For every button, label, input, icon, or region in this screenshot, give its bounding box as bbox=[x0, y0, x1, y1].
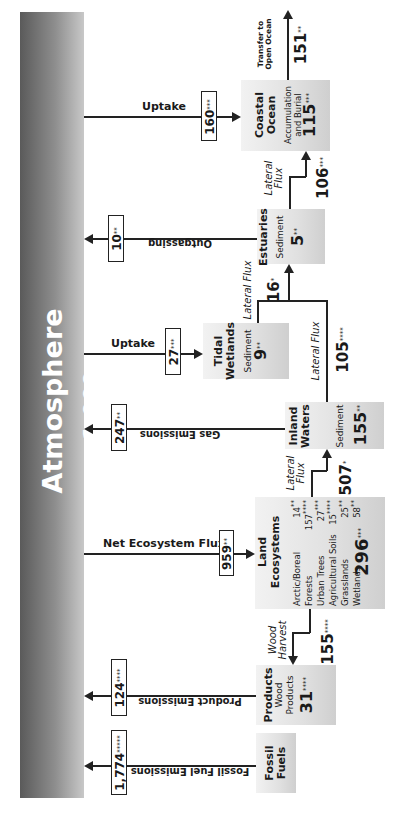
land-ecosystems-node: Land Ecosystems Arctic/Boreal 14** Fores… bbox=[255, 497, 385, 609]
inland-lateral-label: Lateral Flux bbox=[309, 311, 323, 391]
net-ecosystem-value-box: 959** bbox=[219, 530, 234, 576]
land-row-agricultural-soils: Agricultural Soils 15**** bbox=[327, 500, 339, 606]
estuary-coastal-connector-h bbox=[289, 176, 306, 178]
tidal-wetlands-node: Tidal Wetlands Sediment 9** bbox=[203, 323, 289, 379]
arrow-up-icon bbox=[322, 449, 332, 458]
wood-harvest-label: Wood Harvest bbox=[265, 620, 291, 660]
land-inland-connector-h bbox=[311, 470, 327, 472]
product-emissions-value-box: 124**** bbox=[111, 659, 127, 716]
open-ocean-label: Transfer to Open Ocean bbox=[253, 19, 277, 69]
outgassing-label: Outgassing bbox=[140, 237, 220, 251]
wood-harvest-connector-h bbox=[292, 632, 310, 634]
arrow-left-icon bbox=[84, 234, 93, 244]
estuary-coastal-connector-v bbox=[305, 158, 307, 177]
arrow-left-icon bbox=[84, 691, 93, 701]
inland-lateral-value: 105**** bbox=[333, 320, 353, 380]
tidal-up-connector bbox=[257, 300, 259, 323]
fossil-emissions-label: Fossil Fuel Emissions bbox=[130, 765, 250, 779]
fossil-fuels-node: Fossil Fuels bbox=[256, 733, 296, 793]
coastal-uptake-value-box: 160*** bbox=[201, 91, 217, 141]
atmosphere-value: 1,009** bbox=[78, 322, 106, 482]
land-inland-connector-v bbox=[326, 456, 328, 471]
arrow-up-icon bbox=[284, 264, 294, 273]
gas-emissions-value-box: 247** bbox=[111, 404, 127, 451]
estuaries-node: Estuaries Sediment 5** bbox=[257, 209, 325, 264]
arrow-up-icon bbox=[283, 10, 293, 19]
land-total: 296*** bbox=[350, 522, 372, 582]
land-inland-value: 507* bbox=[336, 453, 356, 503]
gas-emissions-label: Gas Emissions bbox=[130, 428, 230, 442]
outgassing-value-box: 10** bbox=[108, 215, 124, 262]
arrow-right-icon bbox=[194, 349, 203, 359]
arrow-up-icon bbox=[301, 151, 311, 160]
land-row-forests: Forests 157**** bbox=[303, 500, 315, 606]
products-node: Products Wood Products 31**** bbox=[256, 665, 336, 725]
land-inland-connector bbox=[311, 470, 313, 497]
atmosphere-label: Atmosphere bbox=[37, 321, 67, 481]
net-ecosystem-label: Net Ecosystem Flux bbox=[103, 537, 225, 550]
arrow-left-icon bbox=[84, 424, 93, 434]
land-inland-label: Lateral Flux bbox=[283, 453, 309, 493]
tidal-uptake-label: Uptake bbox=[111, 337, 155, 350]
to-estuaries-connector bbox=[288, 272, 290, 300]
estuary-coastal-connector bbox=[289, 176, 291, 209]
wood-harvest-connector bbox=[309, 609, 311, 633]
product-emissions-label: Product Emissions bbox=[135, 695, 245, 709]
coastal-ocean-node: Coastal Ocean Accumulation and Burial 11… bbox=[241, 80, 330, 151]
open-ocean-arrow-line bbox=[287, 18, 289, 80]
open-ocean-value: 151** bbox=[291, 25, 311, 65]
to-estuaries-value: 16* bbox=[264, 272, 284, 308]
land-row-arctic: Arctic/Boreal 14** bbox=[291, 500, 303, 606]
to-estuaries-label: Lateral Flux bbox=[241, 250, 255, 330]
wood-harvest-connector-v bbox=[292, 632, 294, 657]
land-row-urban-trees: Urban Trees 27*** bbox=[315, 500, 327, 606]
estuary-coastal-value: 106*** bbox=[313, 153, 333, 203]
fossil-emissions-value-box: 1,774***** bbox=[111, 730, 127, 795]
wood-harvest-value: 155**** bbox=[318, 612, 338, 672]
estuary-coastal-label: Lateral Flux bbox=[261, 158, 287, 198]
arrow-left-icon bbox=[84, 761, 93, 771]
inland-waters-node: Inland Waters Sediment 155** bbox=[285, 402, 384, 449]
arrow-right-icon bbox=[232, 112, 241, 122]
inland-lateral-connector bbox=[326, 300, 328, 402]
tidal-uptake-value-box: 27*** bbox=[165, 328, 181, 375]
coastal-uptake-label: Uptake bbox=[142, 100, 186, 113]
